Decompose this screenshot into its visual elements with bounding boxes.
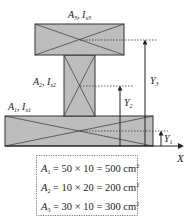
bottom-flange-a1 — [5, 116, 153, 146]
equation-a2: A2 = 10 × 20 = 200 cm2 — [40, 182, 139, 194]
label-a2: A2, Ix2 — [32, 76, 56, 88]
label-a1: A1, Ix1 — [7, 101, 31, 113]
web-a2 — [64, 55, 95, 116]
equation-a1: A1 = 50 × 10 = 500 cm2 — [40, 163, 139, 175]
label-y1: Y1 — [164, 133, 173, 145]
label-y2: Y2 — [124, 97, 133, 109]
equation-a3: A3 = 30 × 10 = 300 cm2 — [40, 201, 139, 213]
label-y3: Y3 — [150, 75, 159, 87]
top-flange-a3 — [35, 24, 124, 55]
composite-section-diagram: X A3, Ix3 A2, Ix2 A1, Ix1 Y3 Y2 Y1 A1 = … — [0, 0, 188, 223]
x-axis-label: X — [176, 152, 185, 164]
label-a3: A3, Ix3 — [67, 9, 91, 21]
